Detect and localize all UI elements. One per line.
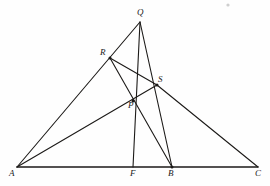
segments-group — [17, 22, 258, 167]
scan-artifact-speck — [226, 3, 229, 6]
segment-S-to-C — [157, 85, 258, 167]
point-label-a: A — [9, 169, 15, 178]
point-label-r: R — [100, 48, 106, 57]
cevian-Q-to-F — [133, 22, 140, 167]
geometry-figure: AQCRSPFB — [0, 0, 270, 186]
cevian-Q-through-S-to-B — [140, 22, 172, 167]
point-label-p: P — [128, 101, 134, 110]
line-A-through-R-to-Q — [17, 22, 140, 167]
point-label-c: C — [255, 169, 261, 178]
geometry-canvas — [0, 0, 270, 186]
point-label-f: F — [130, 169, 136, 178]
cevian-A-through-P-to-S — [17, 85, 157, 167]
point-label-q: Q — [137, 8, 144, 17]
vertex-dot-r — [109, 57, 112, 60]
point-label-s: S — [158, 75, 163, 84]
point-label-b: B — [168, 169, 174, 178]
scan-speck — [226, 3, 229, 6]
